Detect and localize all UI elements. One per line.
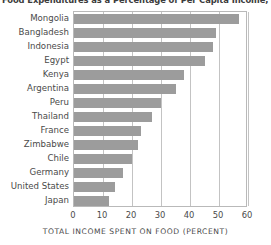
category-label: Kenya [0,69,69,79]
bar [74,98,161,108]
bar-row [74,182,248,192]
bar-row [74,28,248,38]
bar [74,42,213,52]
bar [74,84,176,94]
bar [74,196,109,206]
bar-series [74,12,246,206]
category-label: Peru [0,97,69,107]
x-tick-label: 40 [184,210,195,220]
bar-row [74,14,248,24]
bar [74,70,184,80]
bar-row [74,196,248,206]
bar-row [74,42,248,52]
bar-row [74,168,248,178]
bar [74,14,239,24]
bar [74,140,138,150]
category-label: Germany [0,167,69,177]
bar [74,182,115,192]
category-label: Indonesia [0,41,69,51]
category-label: Thailand [0,111,69,121]
x-tick-label: 60 [242,210,253,220]
bar-row [74,84,248,94]
category-label: Japan [0,195,69,205]
x-tick-label: 30 [155,210,166,220]
bar-row [74,154,248,164]
bar [74,112,152,122]
gridline [248,12,249,206]
category-label: France [0,125,69,135]
bar [74,56,205,66]
bar-row [74,140,248,150]
x-tick-label: 0 [70,210,75,220]
bar-row [74,56,248,66]
bar [74,154,132,164]
category-label: Chile [0,153,69,163]
x-axis-tick-labels: 0102030405060 [0,210,271,222]
bar-row [74,126,248,136]
x-tick-label: 50 [213,210,224,220]
category-label: Mongolia [0,13,69,23]
bar-row [74,112,248,122]
bar [74,168,123,178]
category-label: Egypt [0,55,69,65]
category-label: United States [0,181,69,191]
category-label: Argentina [0,83,69,93]
x-axis-title: TOTAL INCOME SPENT ON FOOD (PERCENT) [0,227,271,236]
x-tick-label: 10 [97,210,108,220]
bar [74,126,141,136]
y-axis-category-labels: MongoliaBangladeshIndonesiaEgyptKenyaArg… [0,11,69,207]
x-tick-label: 20 [126,210,137,220]
chart-title: Food Expenditures as a Percentage of Per… [2,0,271,5]
bar [74,28,216,38]
plot-area [73,11,247,207]
category-label: Zimbabwe [0,139,69,149]
chart-figure: Food Expenditures as a Percentage of Per… [0,0,271,245]
category-label: Bangladesh [0,27,69,37]
bar-row [74,98,248,108]
bar-row [74,70,248,80]
